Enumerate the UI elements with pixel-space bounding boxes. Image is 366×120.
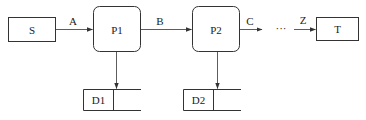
data-store-d2: D2 (184, 90, 242, 111)
process-p2-label: P2 (210, 24, 222, 36)
data-flow-diagram: S A P1 B P2 C ··· Z T D1 (0, 0, 366, 120)
flow-c: C (240, 15, 262, 30)
source-label: S (29, 24, 35, 36)
flow-a-label: A (69, 15, 77, 27)
flow-c-label: C (246, 15, 253, 27)
process-p1-label: P1 (111, 24, 123, 36)
flow-b: B (141, 15, 192, 30)
flow-z: Z (294, 14, 316, 30)
ellipsis: ··· (276, 22, 287, 34)
data-store-d2-label: D2 (192, 94, 205, 106)
source-entity: S (9, 18, 56, 42)
flow-a: A (56, 15, 93, 30)
target-label: T (334, 23, 341, 35)
flow-b-label: B (156, 15, 163, 27)
target-entity: T (317, 18, 359, 41)
process-p1: P1 (94, 7, 141, 52)
data-store-d1: D1 (84, 90, 142, 111)
process-p2: P2 (193, 7, 240, 52)
data-store-d1-label: D1 (92, 94, 105, 106)
flow-z-label: Z (300, 14, 307, 26)
